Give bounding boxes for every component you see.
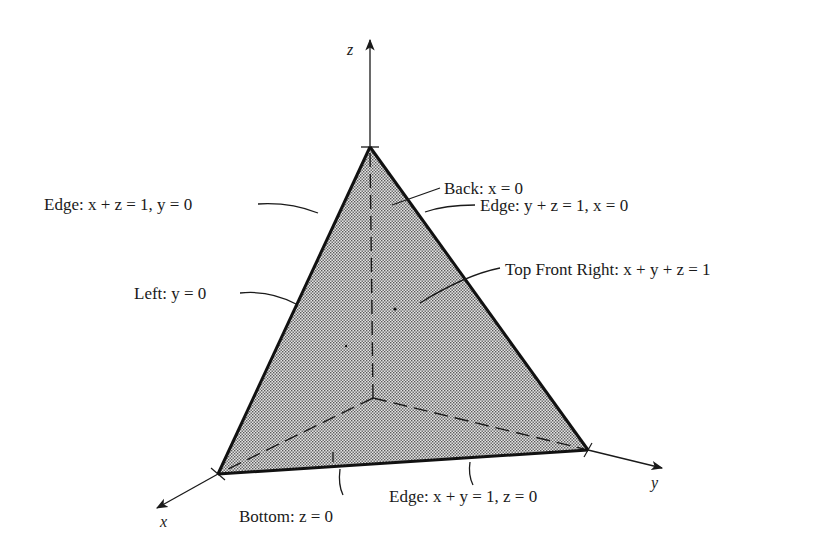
label-back: Back: x = 0 — [444, 180, 523, 197]
label-edge-yz: Edge: y + z = 1, x = 0 — [480, 197, 628, 214]
label-left: Left: y = 0 — [134, 285, 206, 302]
label-edge-xz: Edge: x + z = 1, y = 0 — [44, 196, 192, 213]
x-axis-label: x — [160, 514, 167, 530]
face-dot — [345, 345, 347, 347]
y-axis — [588, 450, 662, 468]
x-axis — [157, 474, 218, 508]
tetrahedron-diagram — [0, 0, 837, 556]
z-axis-label: z — [347, 42, 353, 58]
label-bottom: Bottom: z = 0 — [239, 508, 333, 525]
face-dot — [393, 307, 396, 310]
label-edge-xy: Edge: x + y = 1, z = 0 — [389, 488, 537, 505]
label-top-front-right: Top Front Right: x + y + z = 1 — [505, 261, 711, 278]
y-axis-label: y — [651, 475, 658, 491]
